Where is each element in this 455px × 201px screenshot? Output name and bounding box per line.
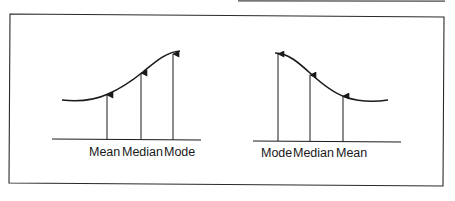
baseline-left (52, 139, 201, 140)
curve-left (62, 51, 180, 101)
label-mode-left: Mode (164, 145, 195, 159)
label-mean-right: Mean (336, 146, 367, 160)
label-median-right: Median (293, 146, 334, 160)
baseline-right (253, 141, 401, 142)
panel-negative-skew (52, 51, 201, 140)
curve-right (275, 53, 388, 101)
diagram-canvas (0, 0, 455, 201)
label-median-left: Median (122, 145, 163, 159)
label-mean-left: Mean (89, 145, 120, 159)
panel-positive-skew (253, 53, 401, 142)
skewness-diagram: Mean Median Mode Mode Median Mean (0, 0, 455, 201)
label-mode-right: Mode (261, 146, 292, 160)
